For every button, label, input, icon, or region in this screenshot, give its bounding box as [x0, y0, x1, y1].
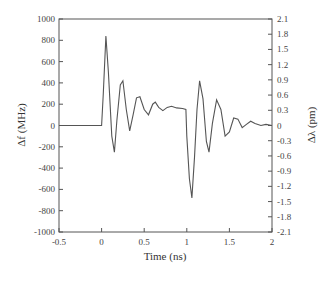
- y2-tick-label: 1.5: [277, 44, 289, 54]
- x-tick-label: 1: [185, 237, 190, 247]
- chirp-line: [59, 36, 272, 198]
- x-tick-label: -0.5: [52, 237, 67, 247]
- y2-tick-label: 2.1: [277, 14, 288, 24]
- x-axis-label: Time (ns): [144, 250, 187, 263]
- y-tick-label: 400: [42, 78, 56, 88]
- x-tick-label: 0: [99, 237, 104, 247]
- y-tick-label: -200: [39, 142, 56, 152]
- y-tick-label: -800: [39, 206, 56, 216]
- y-tick-label: 600: [42, 57, 56, 67]
- y2-tick-label: -2.1: [277, 227, 291, 237]
- y2-tick-label: -1.5: [277, 197, 292, 207]
- y2-tick-label: 0.6: [277, 90, 289, 100]
- y-axis-right-label: Δλ (pm): [305, 106, 318, 143]
- y-tick-label: -1000: [34, 227, 55, 237]
- y2-tick-label: -0.6: [277, 151, 292, 161]
- x-tick-label: 1.5: [224, 237, 236, 247]
- y2-tick-label: 0.3: [277, 105, 289, 115]
- y-axis-left-label: Δf (MHz): [15, 103, 28, 147]
- y-tick-label: -400: [39, 163, 56, 173]
- y2-tick-label: 0: [277, 121, 282, 131]
- y-tick-label: -600: [39, 184, 56, 194]
- y-tick-label: 800: [42, 35, 56, 45]
- chart-canvas: -0.500.511.52 10008006004002000-200-400-…: [0, 0, 327, 283]
- y2-tick-label: 1.2: [277, 60, 288, 70]
- y-tick-label: 1000: [37, 14, 56, 24]
- y-tick-label: 200: [42, 99, 56, 109]
- y2-tick-label: -1.8: [277, 212, 292, 222]
- y2-tick-label: -0.9: [277, 166, 292, 176]
- y2-tick-label: -0.3: [277, 136, 292, 146]
- y2-tick-label: -1.2: [277, 181, 291, 191]
- y2-tick-label: 0.9: [277, 75, 289, 85]
- y-tick-label: 0: [51, 121, 56, 131]
- x-tick-label: 0.5: [139, 237, 151, 247]
- x-axis-ticks: -0.500.511.52: [52, 228, 274, 247]
- x-tick-label: 2: [270, 237, 275, 247]
- y2-tick-label: 1.8: [277, 29, 289, 39]
